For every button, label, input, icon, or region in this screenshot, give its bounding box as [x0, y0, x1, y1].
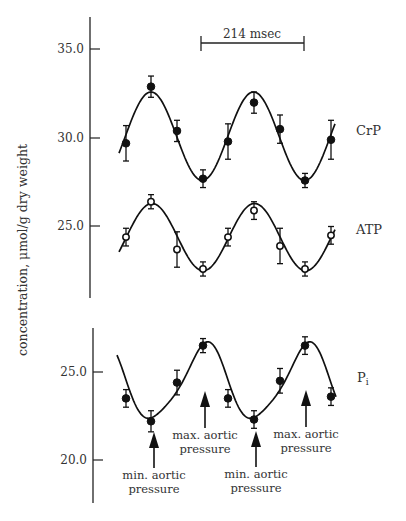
series-label-pi: Pi [357, 370, 369, 387]
arrow-up-icon [251, 431, 261, 447]
y-axis-label: concentration, μmol/g dry weight [15, 144, 30, 356]
data-point-filled [250, 99, 258, 107]
data-point-filled [122, 395, 130, 403]
data-point-filled [276, 377, 284, 385]
data-point-filled [276, 125, 284, 133]
series-label-atp: ATP [355, 222, 382, 237]
data-point-filled [147, 417, 155, 425]
svg-text:max. aortic: max. aortic [273, 427, 339, 441]
tick-label-35: 35.0 [57, 42, 84, 56]
data-point-filled [250, 416, 258, 424]
scale-bar-label: 214 msec [223, 27, 281, 41]
data-point-filled [199, 342, 207, 350]
svg-text:pressure: pressure [128, 482, 179, 496]
tick-label-30: 30.0 [57, 131, 84, 145]
data-point-filled [224, 138, 232, 146]
chart-canvas: concentration, μmol/g dry weight 35.0 30… [0, 0, 406, 521]
arrow-up-icon [149, 432, 159, 448]
tick-label-25-top: 25.0 [57, 219, 84, 233]
svg-text:pressure: pressure [179, 442, 230, 456]
tick-label-25-bottom: 25.0 [60, 365, 87, 379]
data-point-filled [327, 393, 335, 401]
series-pi [117, 337, 336, 432]
data-point-filled [173, 379, 181, 387]
data-point-filled [147, 83, 155, 91]
svg-text:max. aortic: max. aortic [172, 428, 238, 442]
data-point-filled [199, 175, 207, 183]
data-point-open [328, 232, 334, 238]
data-point-open [251, 207, 257, 213]
data-point-filled [327, 136, 335, 144]
svg-text:pressure: pressure [280, 441, 331, 455]
svg-text:min. aortic: min. aortic [224, 467, 287, 481]
svg-text:pressure: pressure [230, 481, 281, 495]
svg-text:min. aortic: min. aortic [122, 468, 185, 482]
arrow-up-icon [200, 391, 210, 407]
series-label-crp: CrP [356, 123, 381, 138]
data-point-open [302, 266, 308, 272]
scale-bar: 214 msec [201, 27, 304, 51]
data-point-filled [122, 140, 130, 148]
data-point-filled [224, 395, 232, 403]
data-point-open [148, 199, 154, 205]
data-point-open [200, 266, 206, 272]
arrow-up-icon [301, 390, 311, 406]
data-point-filled [173, 127, 181, 135]
data-point-open [277, 243, 283, 249]
bottom-axis: 25.0 20.0 [60, 328, 103, 503]
data-point-filled [301, 342, 309, 350]
tick-label-20: 20.0 [60, 453, 87, 467]
data-point-open [225, 234, 231, 240]
series-crp [119, 76, 335, 188]
series-atp [119, 195, 335, 276]
data-point-open [174, 246, 180, 252]
data-point-open [123, 234, 129, 240]
top-axis: 35.0 30.0 25.0 [57, 17, 100, 298]
data-point-filled [301, 177, 309, 185]
